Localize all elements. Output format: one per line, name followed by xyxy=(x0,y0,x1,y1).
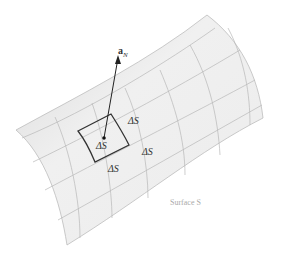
patch-label-center: ΔS xyxy=(96,140,107,151)
normal-vector-label: aN xyxy=(118,45,128,59)
diagram-canvas: aN ΔS ΔS ΔS ΔS Surface S xyxy=(0,0,281,253)
surface-label: Surface S xyxy=(170,198,201,207)
patch-label-below: ΔS xyxy=(108,163,119,174)
surface-drawing xyxy=(0,0,281,253)
patch-label-right: ΔS xyxy=(142,146,153,157)
patch-label-upper-right: ΔS xyxy=(128,115,139,126)
